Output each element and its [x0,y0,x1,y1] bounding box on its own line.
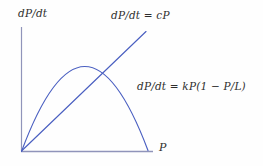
x-axis-label: P [159,142,167,153]
logistic-curve-path [22,66,149,151]
logistic-vs-exponential-figure: dP/dt P dP/dt = cP dP/dt = kP(1 − P/L) [0,0,263,166]
exponential-line-path [22,32,147,152]
y-axis-label: dP/dt [18,8,47,19]
exponential-curve-label: dP/dt = cP [111,10,170,21]
logistic-curve-label: dP/dt = kP(1 − P/L) [137,81,246,92]
